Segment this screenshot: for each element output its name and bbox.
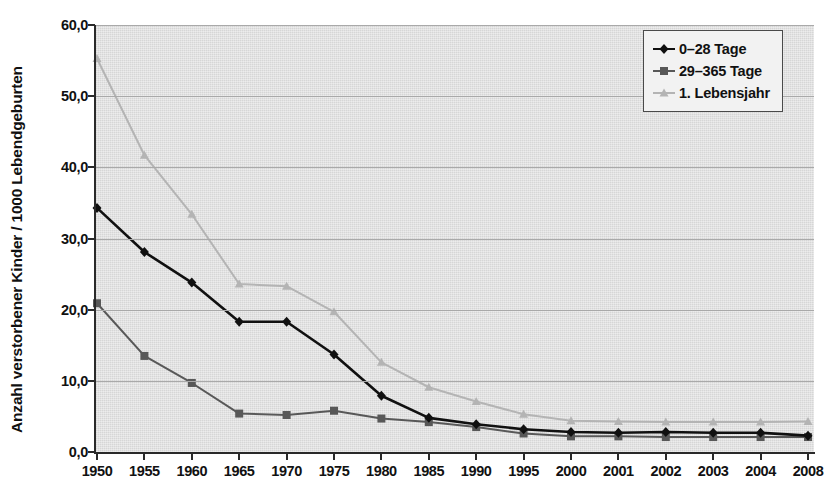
data-point-marker: [660, 89, 669, 97]
series-line: [97, 303, 808, 437]
y-axis-tick-label: 30,0: [42, 231, 88, 247]
y-axis-tick-label: 10,0: [42, 373, 88, 389]
triangle-icon: [653, 87, 675, 99]
x-axis-tick-mark: [475, 452, 477, 460]
series-line: [97, 208, 808, 436]
y-axis-tick-label: 40,0: [42, 159, 88, 175]
gridline: [95, 381, 814, 382]
data-point-marker: [660, 67, 668, 75]
data-point-marker: [660, 44, 669, 54]
legend-label: 1. Lebensjahr: [679, 85, 770, 101]
x-axis-tick-mark: [760, 452, 762, 460]
y-axis-tick-group: 0,010,020,030,040,050,060,0: [36, 0, 88, 499]
y-axis-tick-label: 60,0: [42, 17, 88, 33]
data-point-marker: [140, 151, 149, 159]
gridline: [95, 167, 814, 168]
data-point-marker: [330, 407, 338, 415]
y-axis-tick-label: 20,0: [42, 302, 88, 318]
x-axis-tick-mark: [191, 452, 193, 460]
x-axis-tick-label: 1990: [461, 463, 492, 479]
x-axis-tick-mark: [617, 452, 619, 460]
x-axis-tick-mark: [712, 452, 714, 460]
y-axis-line: [94, 25, 96, 453]
legend-item-1[interactable]: 0–28 Tage: [653, 38, 770, 60]
x-axis-tick-mark: [523, 452, 525, 460]
x-axis-tick-mark: [96, 452, 98, 460]
data-point-marker: [235, 410, 243, 418]
y-axis-tick-label: 50,0: [42, 88, 88, 104]
diamond-icon: [653, 43, 675, 55]
x-axis-tick-label: 2002: [650, 463, 681, 479]
legend-item-3[interactable]: 1. Lebensjahr: [653, 82, 770, 104]
data-point-marker: [330, 307, 339, 315]
x-axis-tick-mark: [428, 452, 430, 460]
data-point-marker: [283, 411, 291, 419]
x-axis-tick-mark: [380, 452, 382, 460]
x-axis-tick-label: 2003: [698, 463, 729, 479]
data-point-marker: [377, 415, 385, 423]
x-axis-tick-label: 2000: [556, 463, 587, 479]
x-axis-tick-mark: [238, 452, 240, 460]
data-point-marker: [140, 352, 148, 360]
x-axis-tick-label: 1985: [413, 463, 444, 479]
x-axis-tick-label: 1980: [366, 463, 397, 479]
gridline: [95, 25, 814, 26]
x-axis-tick-mark: [286, 452, 288, 460]
gridline: [95, 239, 814, 240]
x-axis-tick-label: 2001: [603, 463, 634, 479]
x-axis-tick-label: 1995: [508, 463, 539, 479]
data-point-marker: [424, 383, 433, 391]
x-axis-tick-label: 2008: [793, 463, 824, 479]
square-icon: [653, 65, 675, 77]
x-axis-tick-mark: [665, 452, 667, 460]
y-axis-title: Anzahl verstorbener Kinder / 1000 Lebend…: [0, 0, 34, 499]
x-axis-tick-mark: [143, 452, 145, 460]
x-axis-tick-label: 1975: [319, 463, 350, 479]
x-axis-tick-label: 1970: [271, 463, 302, 479]
x-axis-tick-label: 1955: [129, 463, 160, 479]
x-axis-tick-mark: [807, 452, 809, 460]
x-axis-tick-label: 1965: [224, 463, 255, 479]
legend[interactable]: 0–28 Tage29–365 Tage1. Lebensjahr: [643, 30, 783, 112]
x-axis-line: [94, 452, 815, 454]
x-axis-tick-label: 1960: [176, 463, 207, 479]
legend-item-2[interactable]: 29–365 Tage: [653, 60, 770, 82]
legend-label: 0–28 Tage: [679, 41, 746, 57]
x-axis-tick-mark: [570, 452, 572, 460]
gridline: [95, 310, 814, 311]
x-axis-tick-label: 2004: [745, 463, 776, 479]
x-axis-tick-mark: [333, 452, 335, 460]
x-axis-tick-label: 1950: [82, 463, 113, 479]
y-axis-tick-label: 0,0: [42, 444, 88, 460]
series-line: [97, 58, 808, 422]
line-chart: Anzahl verstorbener Kinder / 1000 Lebend…: [0, 0, 825, 499]
legend-label: 29–365 Tage: [679, 63, 762, 79]
